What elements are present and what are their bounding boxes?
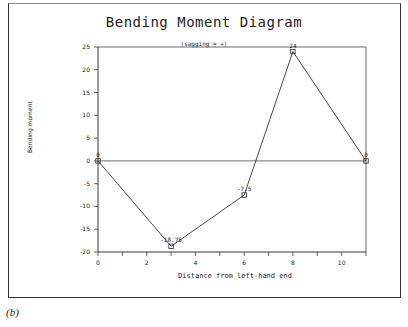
x-tick-label: 10 (338, 259, 346, 266)
x-tick-label: 4 (194, 259, 198, 266)
data-point-label: 24 (289, 42, 297, 49)
y-tick-label: 25 (82, 43, 90, 50)
y-tick-label: -20 (80, 248, 90, 255)
y-tick-label: -5 (84, 180, 90, 187)
x-tick-label: 8 (291, 259, 295, 266)
x-tick-label: 0 (96, 259, 100, 266)
x-tick-label: 2 (145, 259, 149, 266)
plot-area: 2520151050-5-10-15-2002468100-18.75-7.52… (0, 0, 408, 327)
data-point-label: -18.75 (160, 236, 182, 243)
data-point-label: 0 (96, 151, 100, 158)
data-point-label: -7.5 (237, 185, 252, 192)
y-tick-label: 20 (82, 66, 90, 73)
y-tick-label: 0 (86, 157, 90, 164)
y-tick-label: 10 (82, 111, 90, 118)
y-tick-label: 5 (86, 134, 90, 141)
y-tick-label: 15 (82, 89, 90, 96)
x-tick-label: 6 (242, 259, 246, 266)
data-point-label: 0 (364, 151, 368, 158)
y-tick-label: -10 (80, 202, 90, 209)
y-tick-label: -15 (80, 225, 90, 232)
data-line (98, 52, 366, 247)
